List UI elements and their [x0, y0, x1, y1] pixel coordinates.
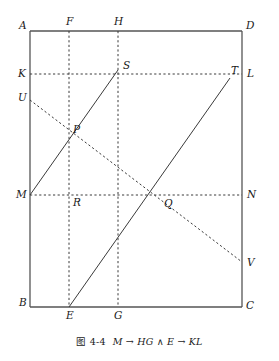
point-labels-layer: ADBCFHKLUMNEGVSTPRQ: [15, 15, 257, 321]
point-label-H: H: [113, 15, 124, 27]
point-label-T: T: [231, 64, 239, 76]
point-label-U: U: [18, 91, 28, 103]
segment-E-T: [69, 78, 230, 307]
segments-layer: [30, 31, 242, 307]
figure-root: ADBCFHKLUMNEGVSTPRQ 图 4-4M → HG ∧ E → KL: [0, 0, 279, 361]
point-label-R: R: [72, 196, 81, 208]
caption-number: 图 4-4: [76, 336, 105, 347]
caption-formula: M → HG ∧ E → KL: [113, 336, 203, 347]
point-label-K: K: [17, 67, 27, 79]
point-label-S: S: [123, 59, 130, 71]
point-label-V: V: [247, 256, 256, 268]
point-label-D: D: [245, 19, 255, 31]
segment-U-V: [30, 100, 242, 262]
point-label-M: M: [15, 188, 27, 200]
point-label-L: L: [246, 67, 254, 79]
figure-caption: 图 4-4M → HG ∧ E → KL: [0, 334, 279, 348]
point-label-N: N: [246, 188, 257, 200]
point-label-A: A: [18, 19, 27, 31]
point-label-E: E: [65, 309, 74, 321]
point-label-Q: Q: [164, 197, 173, 210]
point-label-P: P: [72, 123, 81, 135]
point-label-C: C: [246, 299, 254, 311]
point-label-F: F: [65, 15, 74, 27]
point-label-G: G: [114, 309, 122, 321]
point-label-B: B: [18, 296, 27, 308]
geometry-diagram: ADBCFHKLUMNEGVSTPRQ: [0, 0, 279, 361]
